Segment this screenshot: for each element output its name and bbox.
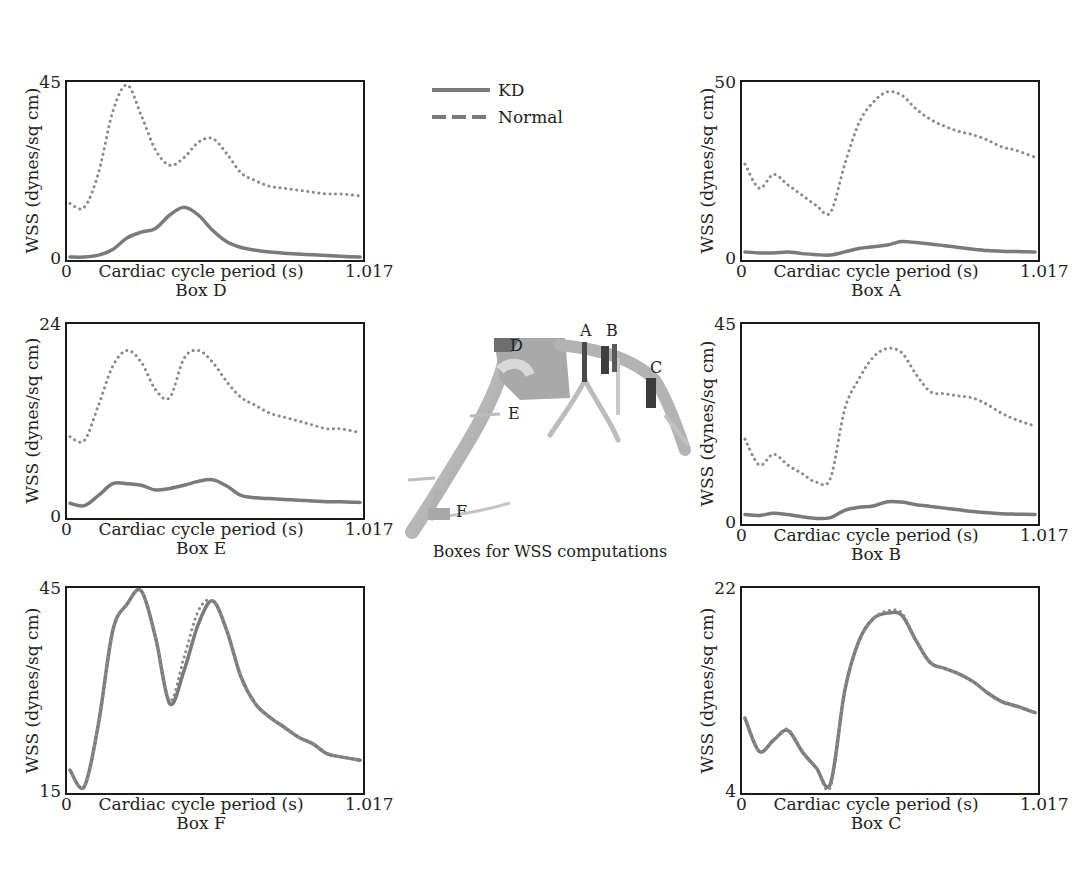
kd-line xyxy=(745,501,1035,518)
panel-title: Box C xyxy=(726,815,1026,832)
y-axis-label: WSS (dynes/sq cm) xyxy=(699,590,716,790)
diagram-label-f: F xyxy=(456,502,467,521)
x-axis-label: Cardiac cycle period (s) xyxy=(726,796,1026,813)
normal-line xyxy=(745,91,1035,214)
plot-frame-box-f xyxy=(65,586,365,795)
plot-frame-box-c xyxy=(740,586,1040,795)
panel-title: Box B xyxy=(726,546,1026,563)
y-axis-label: WSS (dynes/sq cm) xyxy=(699,71,716,271)
normal-line xyxy=(70,85,360,209)
panel-title: Box D xyxy=(51,282,351,299)
plot-frame-box-b xyxy=(740,322,1040,526)
panel-title: Box A xyxy=(726,282,1026,299)
normal-line xyxy=(745,610,1035,791)
normal-line xyxy=(70,350,360,442)
y-axis-label: WSS (dynes/sq cm) xyxy=(24,321,41,521)
kd-line xyxy=(70,590,360,789)
panel-title: Box F xyxy=(51,815,351,832)
plot-area xyxy=(742,82,1038,260)
normal-line xyxy=(70,590,360,789)
diagram-label-b: B xyxy=(606,321,618,340)
legend-label-kd: KD xyxy=(498,80,524,100)
plot-frame-box-d xyxy=(65,80,365,262)
plot-frame-box-a xyxy=(740,80,1040,262)
y-axis-label: WSS (dynes/sq cm) xyxy=(699,324,716,524)
x-tick-max: 1.017 xyxy=(345,521,394,538)
y-axis-label: WSS (dynes/sq cm) xyxy=(24,71,41,271)
x-tick-max: 1.017 xyxy=(345,263,394,280)
x-axis-label: Cardiac cycle period (s) xyxy=(51,796,351,813)
x-axis-label: Cardiac cycle period (s) xyxy=(51,263,351,280)
x-tick-max: 1.017 xyxy=(1020,527,1069,544)
diagram-caption: Boxes for WSS computations xyxy=(400,542,700,561)
diagram-label-c: C xyxy=(650,358,662,377)
plot-area xyxy=(67,82,363,260)
x-axis-label: Cardiac cycle period (s) xyxy=(51,521,351,538)
legend-item-kd: KD xyxy=(430,80,524,100)
dashed-line-icon xyxy=(430,112,492,122)
x-axis-label: Cardiac cycle period (s) xyxy=(726,527,1026,544)
x-tick-max: 1.017 xyxy=(345,796,394,813)
normal-line xyxy=(745,348,1035,485)
x-tick-max: 1.017 xyxy=(1020,796,1069,813)
solid-line-icon xyxy=(430,85,492,95)
diagram-label-e: E xyxy=(508,404,520,423)
kd-line xyxy=(745,612,1035,787)
plot-area xyxy=(742,324,1038,524)
legend-label-normal: Normal xyxy=(498,107,563,127)
x-axis-label: Cardiac cycle period (s) xyxy=(726,263,1026,280)
kd-line xyxy=(745,241,1035,255)
plot-area xyxy=(67,588,363,793)
diagram-label-a: A xyxy=(580,321,592,340)
diagram-label-d: D xyxy=(510,336,523,355)
vessel-illustration xyxy=(400,320,700,550)
coronary-vessel-diagram: D A B C E F xyxy=(400,320,700,550)
kd-line xyxy=(70,480,360,506)
legend-item-normal: Normal xyxy=(430,107,563,127)
plot-frame-box-e xyxy=(65,322,365,520)
kd-line xyxy=(70,207,360,257)
panel-title: Box E xyxy=(51,540,351,557)
y-axis-label: WSS (dynes/sq cm) xyxy=(24,590,41,790)
x-tick-max: 1.017 xyxy=(1020,263,1069,280)
plot-area xyxy=(67,324,363,518)
plot-area xyxy=(742,588,1038,793)
